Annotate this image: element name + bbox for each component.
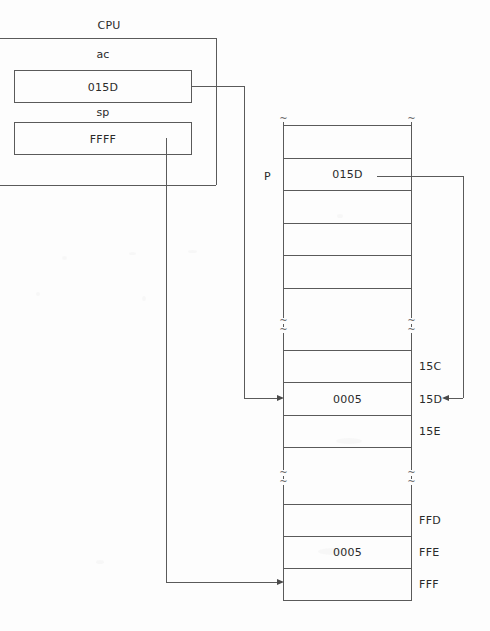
- connector-sp-to-memory-segment-v: [166, 138, 167, 582]
- memory-break-mark-icon: ~: [278, 327, 289, 333]
- memory-left-rail-middle: [283, 336, 284, 488]
- memory-row-divider: [283, 255, 412, 256]
- memory-row-divider: [283, 382, 412, 383]
- memory-cell-value-ffe: 0005: [283, 547, 412, 558]
- memory-row-divider: [283, 447, 412, 448]
- connector-sp-to-memory-arrowhead: [277, 579, 284, 585]
- connector-pointer-to-address-arrowhead: [442, 395, 449, 401]
- memory-row-divider: [283, 415, 412, 416]
- connector-ac-to-memory-segment-v: [244, 86, 245, 398]
- scan-speckle: [337, 214, 343, 218]
- memory-break-mark-icon: ~: [406, 479, 417, 485]
- connector-ac-to-memory-segment-h1: [192, 86, 244, 87]
- memory-row-divider: [283, 125, 412, 126]
- memory-break-mark-icon: ~: [278, 116, 289, 122]
- diagram-canvas: CPU ac 015D sp FFFF P 015D 0005 15C 15D …: [0, 0, 490, 631]
- scan-speckle: [336, 438, 362, 444]
- memory-address-ffd: FFD: [419, 515, 441, 526]
- register-label-sp: sp: [58, 107, 148, 118]
- memory-break-mark-icon: ~: [406, 116, 417, 122]
- cpu-title-label: CPU: [64, 20, 154, 31]
- memory-row-divider: [283, 223, 412, 224]
- memory-address-15e: 15E: [419, 426, 441, 437]
- memory-break-mark-icon: ~: [406, 327, 417, 333]
- connector-sp-to-memory-segment-h: [166, 582, 277, 583]
- memory-row-divider: [283, 504, 412, 505]
- scan-speckle: [62, 256, 67, 260]
- memory-left-rail-upper: [283, 118, 284, 336]
- cpu-box-bottom-edge: [0, 185, 216, 186]
- connector-ac-to-memory-arrowhead: [277, 395, 284, 401]
- scan-speckle: [36, 292, 40, 296]
- memory-address-15c: 15C: [419, 361, 442, 372]
- register-value-ac: 015D: [14, 82, 192, 93]
- connector-ac-to-memory-segment-h2: [244, 398, 277, 399]
- register-label-ac: ac: [58, 49, 148, 60]
- connector-pointer-to-address-segment-h1: [377, 176, 463, 177]
- memory-row-divider: [283, 536, 412, 537]
- memory-pointer-label: P: [264, 171, 271, 182]
- memory-row-divider: [283, 600, 412, 601]
- memory-row-divider: [283, 350, 412, 351]
- memory-row-divider: [283, 158, 412, 159]
- connector-pointer-to-address-segment-h2: [449, 398, 463, 399]
- scan-speckle: [96, 560, 104, 564]
- memory-address-ffe: FFE: [419, 547, 440, 558]
- memory-row-divider: [283, 190, 412, 191]
- memory-right-rail-middle: [411, 336, 412, 488]
- memory-break-mark-icon: ~: [278, 479, 289, 485]
- memory-right-rail-upper: [411, 118, 412, 336]
- memory-row-divider: [283, 568, 412, 569]
- connector-pointer-to-address-segment-v: [463, 176, 464, 398]
- scan-speckle: [188, 250, 197, 253]
- cpu-box-top-edge: [0, 38, 216, 39]
- memory-address-15d: 15D: [419, 394, 442, 405]
- memory-row-divider: [283, 288, 412, 289]
- memory-cell-value-15d: 0005: [283, 394, 412, 405]
- cpu-box-right-edge: [216, 38, 217, 185]
- memory-cell-value-p: 015D: [283, 169, 412, 180]
- memory-address-fff: FFF: [419, 579, 439, 590]
- scan-speckle: [129, 252, 136, 255]
- scan-speckle: [142, 296, 146, 301]
